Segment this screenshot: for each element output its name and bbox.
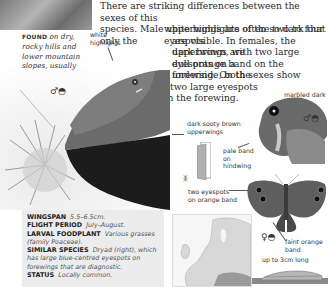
spec-value: 5.5–6.5cm. [70, 213, 105, 221]
size-comparison-book-icon [197, 142, 211, 180]
butterfly-icon: ᛤ [183, 174, 188, 183]
found-label: FOUND [22, 33, 47, 40]
label-pale-band-on-hindwing: pale band on hindwing [223, 147, 259, 170]
spec-key: WINGSPAN [27, 213, 66, 221]
label-dark-sooty-brown-upperwings: dark sooty brown upperwings [187, 120, 247, 135]
male-underside-symbol: ♂◓ [303, 113, 319, 123]
spec-wingspan: WINGSPAN 5.5–6.5cm. [27, 213, 164, 221]
leader-line [172, 134, 184, 135]
caterpillar-image [252, 266, 328, 284]
female-sex-symbol: ♀◓ [261, 232, 275, 242]
spec-key: SIMILAR SPECIES [27, 246, 89, 254]
label-faint-orange-band: faint orange band [285, 238, 325, 253]
underside-butterfly-photo [247, 96, 328, 166]
species-facts-box: WINGSPAN 5.5–6.5cm. FLIGHT PERIOD July–A… [22, 210, 164, 287]
label-white-highlights: white highlights [90, 31, 130, 46]
spec-similar-species: SIMILAR SPECIES Dryad (right), which has… [27, 246, 164, 271]
spec-key: STATUS [27, 271, 54, 279]
habitat-photo [0, 0, 92, 30]
label-caterpillar-length: up to 3cm long [262, 256, 309, 264]
spec-key: FLIGHT PERIOD [27, 221, 82, 229]
intro-line: two large eyespots [170, 81, 258, 93]
female-upperside-butterfly-photo [245, 172, 328, 232]
distribution-map [172, 214, 252, 287]
spec-status: STATUS Locally common. [27, 271, 164, 279]
intro-line: underside, both sexes show [172, 69, 301, 81]
butterfly-on-thistle-photo [0, 70, 170, 210]
spec-flight-period: FLIGHT PERIOD July–August. [27, 221, 164, 229]
leader-line [108, 47, 114, 60]
intro-line: There are striking differences between t… [100, 0, 328, 23]
intro-line: on the forewing. [162, 92, 239, 104]
spec-value: July–August. [86, 221, 125, 229]
spec-larval-foodplant: LARVAL FOODPLANT Various grasses (family… [27, 230, 164, 247]
male-sex-symbol: ♂◓ [50, 86, 66, 96]
spec-value: Locally common. [58, 271, 112, 279]
spec-key: LARVAL FOODPLANT [27, 230, 101, 238]
